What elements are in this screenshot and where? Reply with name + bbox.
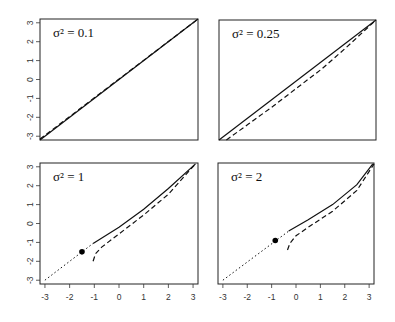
x-tick-label: 3 xyxy=(367,292,372,302)
series-dashed-line xyxy=(288,164,375,250)
y-tick-label: -2 xyxy=(25,113,35,121)
panel-title: σ² = 1 xyxy=(53,169,84,184)
y-tick-label: 1 xyxy=(25,202,35,207)
x-tick-label: 0 xyxy=(294,292,299,302)
x-tick-label: -2 xyxy=(243,292,251,302)
x-tick-label: 0 xyxy=(117,292,122,302)
panel-title: σ² = 0.25 xyxy=(232,26,280,41)
y-tick-label: 0 xyxy=(25,221,35,226)
x-tick-label: -1 xyxy=(268,292,276,302)
panel-sigma2-0.25: σ² = 0.25 xyxy=(219,20,376,140)
x-tick-label: -3 xyxy=(41,292,49,302)
y-tick-label: -1 xyxy=(25,238,35,246)
panel-sigma2-1: -3-2-10123-3-2-10123σ² = 1 xyxy=(25,163,198,302)
chart-figure: -3-2-10123σ² = 0.1 σ² = 0.25 -3-2-10123-… xyxy=(0,0,395,322)
y-tick-label: 3 xyxy=(25,164,35,169)
panel-title: σ² = 2 xyxy=(231,169,262,184)
y-tick-label: -2 xyxy=(25,257,35,265)
panel-sigma2-0.1: -3-2-10123σ² = 0.1 xyxy=(25,19,198,140)
data-point-marker xyxy=(79,249,85,255)
y-tick-label: 0 xyxy=(25,77,35,82)
x-tick-label: 1 xyxy=(141,292,146,302)
series-solid-line xyxy=(93,164,195,244)
y-tick-label: 2 xyxy=(25,39,35,44)
y-tick-label: -3 xyxy=(25,276,35,284)
data-point-marker xyxy=(272,238,278,244)
x-tick-label: 3 xyxy=(191,292,196,302)
x-tick-label: 1 xyxy=(318,292,323,302)
panel-sigma2-2: -3-2-10123σ² = 2 xyxy=(218,163,374,302)
y-tick-label: -3 xyxy=(25,132,35,140)
y-tick-label: 2 xyxy=(25,183,35,188)
y-tick-label: -1 xyxy=(25,94,35,102)
x-tick-label: 2 xyxy=(166,292,171,302)
series-dotted-line xyxy=(223,231,289,280)
x-tick-label: 2 xyxy=(342,292,347,302)
series-dotted-line xyxy=(45,243,93,280)
panel-title: σ² = 0.1 xyxy=(53,25,94,40)
x-tick-label: -1 xyxy=(91,292,99,302)
x-tick-label: -2 xyxy=(66,292,74,302)
y-tick-label: 1 xyxy=(25,58,35,63)
y-tick-label: 3 xyxy=(25,20,35,25)
series-solid-line xyxy=(289,164,373,231)
x-tick-label: -3 xyxy=(219,292,227,302)
